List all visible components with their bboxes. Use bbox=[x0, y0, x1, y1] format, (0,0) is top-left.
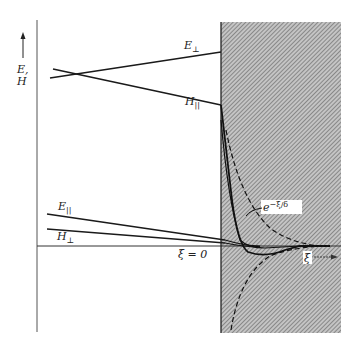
field-penetration-diagram: E, H E⊥ H|| e−ξ/δ E|| H⊥ ξ = 0 ξ bbox=[0, 0, 358, 349]
label-e-parallel: E|| bbox=[57, 200, 71, 215]
field-axis-arrow-icon bbox=[21, 32, 26, 58]
xi-axis-label: ξ bbox=[304, 252, 311, 265]
origin-label: ξ = 0 bbox=[178, 248, 207, 261]
axis-label-h: H bbox=[16, 75, 27, 88]
curve-h-parallel bbox=[53, 69, 221, 105]
label-e-perp: E⊥ bbox=[183, 39, 200, 54]
label-h-parallel: H|| bbox=[184, 95, 200, 110]
label-h-perp: H⊥ bbox=[56, 230, 74, 245]
